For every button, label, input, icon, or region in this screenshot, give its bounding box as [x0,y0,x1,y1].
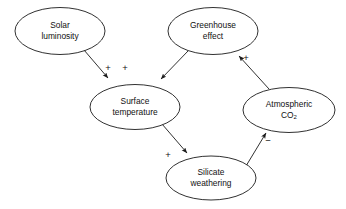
node-label-surface-temperature-line1: Surface [121,96,150,106]
node-label-atmospheric-co2-line1: Atmospheric [266,99,313,109]
node-label-silicate-weathering-line2: weathering [190,178,232,188]
edge-silicate-to-co2 [246,133,266,166]
diagram-canvas: Solar luminosity Greenhouse effect Surfa… [0,0,346,209]
sign-label-solar-to-surface: + [105,62,111,73]
sign-label-silicate-to-co2: − [265,135,271,146]
node-atmospheric-co2[interactable]: Atmospheric CO2 [243,88,335,133]
node-label-greenhouse-effect-line1: Greenhouse [190,20,236,30]
node-label-solar-luminosity-line2: luminosity [41,31,79,41]
node-label-surface-temperature-line2: temperature [112,107,157,117]
nodes-layer: Solar luminosity Greenhouse effect Surfa… [15,8,335,201]
edge-greenhouse-to-surface [161,51,188,79]
sign-label-co2-to-greenhouse: + [243,52,249,63]
node-solar-luminosity[interactable]: Solar luminosity [15,8,105,55]
node-silicate-weathering[interactable]: Silicate weathering [166,156,256,200]
node-label-silicate-weathering-line1: Silicate [198,167,225,177]
causal-loop-diagram: Solar luminosity Greenhouse effect Surfa… [0,0,346,209]
node-label-solar-luminosity-line1: Solar [50,20,70,30]
co2-base: CO [281,110,294,120]
node-surface-temperature[interactable]: Surface temperature [90,85,180,130]
node-greenhouse-effect[interactable]: Greenhouse effect [168,8,258,55]
sign-label-surface-to-silicate: + [165,149,171,160]
sign-label-greenhouse-to-surface: + [122,62,128,73]
node-label-greenhouse-effect-line2: effect [203,31,224,41]
